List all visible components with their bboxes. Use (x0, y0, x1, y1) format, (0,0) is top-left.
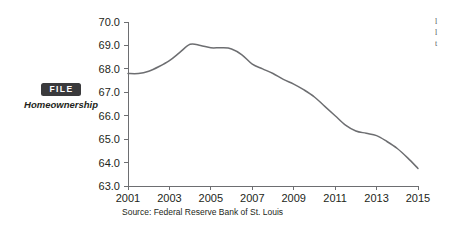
axis-lines (128, 22, 418, 186)
figure-page: FILE Homeownership 63.064.065.066.067.06… (0, 0, 451, 227)
y-axis-ticks (124, 22, 128, 186)
margin-fragment-3: t (435, 38, 449, 49)
y-tick-label: 63.0 (99, 180, 120, 192)
x-tick-label: 2011 (323, 192, 347, 204)
y-tick-label: 64.0 (99, 157, 120, 169)
x-tick-label: 2005 (199, 192, 223, 204)
x-tick-label: 2007 (240, 192, 264, 204)
y-axis-labels: 63.064.065.066.067.068.069.070.0 (99, 16, 120, 192)
x-tick-label: 2015 (406, 192, 430, 204)
margin-fragment-1: l (435, 16, 449, 27)
y-tick-label: 67.0 (99, 86, 120, 98)
x-tick-label: 2009 (281, 192, 305, 204)
homeownership-line (128, 44, 418, 169)
y-tick-label: 66.0 (99, 110, 120, 122)
y-tick-label: 70.0 (99, 16, 120, 28)
y-tick-label: 65.0 (99, 133, 120, 145)
line-chart: 63.064.065.066.067.068.069.070.0 2001200… (0, 0, 451, 227)
x-tick-label: 2013 (364, 192, 388, 204)
x-axis-labels: 20012003200520072009201120132015 (116, 192, 430, 204)
source-note: Source: Federal Reserve Bank of St. Loui… (122, 207, 283, 217)
chart-svg: 63.064.065.066.067.068.069.070.0 2001200… (0, 0, 451, 227)
x-axis-ticks (128, 186, 418, 190)
y-tick-label: 68.0 (99, 63, 120, 75)
x-tick-label: 2001 (116, 192, 140, 204)
y-tick-label: 69.0 (99, 39, 120, 51)
x-tick-label: 2003 (157, 192, 181, 204)
margin-text-fragments: l l t (435, 16, 449, 49)
margin-fragment-2: l (435, 27, 449, 38)
